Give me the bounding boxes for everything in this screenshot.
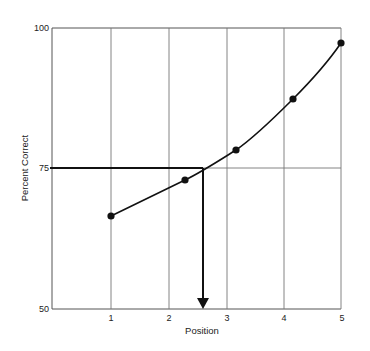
data-curve xyxy=(111,43,341,216)
data-points xyxy=(107,39,344,219)
x-tick-2: 2 xyxy=(166,313,171,323)
data-point xyxy=(107,212,114,219)
arrow-down-icon xyxy=(197,298,209,309)
data-point xyxy=(181,176,188,183)
x-tick-4: 4 xyxy=(281,313,286,323)
x-tick-1: 1 xyxy=(108,313,113,323)
data-point xyxy=(232,146,239,153)
data-point xyxy=(289,95,296,102)
y-tick-75: 75 xyxy=(39,163,49,173)
x-tick-5: 5 xyxy=(339,313,344,323)
data-point xyxy=(337,39,344,46)
y-tick-50: 50 xyxy=(39,304,49,314)
x-axis-label: Position xyxy=(185,325,219,336)
y-axis-label: Percent Correct xyxy=(19,134,30,201)
y-tick-100: 100 xyxy=(34,23,49,33)
chart: 100 75 50 1 2 3 4 5 Position Percent Cor… xyxy=(0,0,370,351)
x-tick-3: 3 xyxy=(224,313,229,323)
